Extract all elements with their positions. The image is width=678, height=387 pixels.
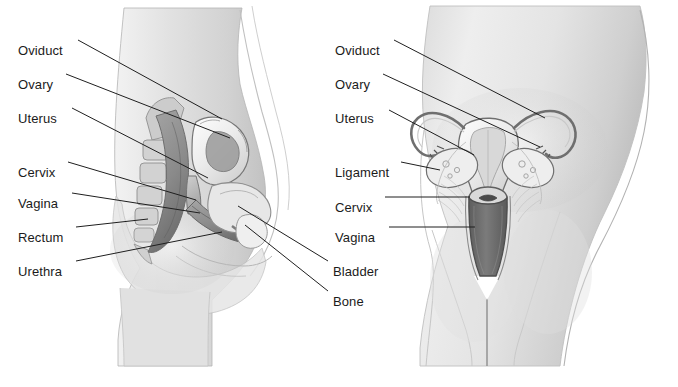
label-frontal-ovary: Ovary bbox=[335, 78, 370, 91]
label-sagittal-bone: Bone bbox=[333, 295, 364, 308]
sagittal-pubic-bone bbox=[236, 214, 267, 248]
label-frontal-oviduct: Oviduct bbox=[335, 44, 380, 57]
label-frontal-uterus: Uterus bbox=[335, 112, 374, 125]
label-sagittal-cervix: Cervix bbox=[18, 166, 55, 179]
label-sagittal-urethra: Urethra bbox=[18, 265, 62, 278]
label-sagittal-uterus: Uterus bbox=[18, 112, 57, 125]
label-frontal-ligament: Ligament bbox=[335, 166, 389, 179]
label-frontal-vagina: Vagina bbox=[335, 231, 375, 244]
label-frontal-cervix: Cervix bbox=[335, 201, 372, 214]
label-sagittal-rectum: Rectum bbox=[18, 231, 63, 244]
anatomy-illustration bbox=[0, 0, 678, 387]
anatomy-figure: OviductOvaryUterusCervixVaginaRectumUret… bbox=[0, 0, 678, 387]
label-sagittal-oviduct: Oviduct bbox=[18, 44, 63, 57]
label-sagittal-ovary: Ovary bbox=[18, 78, 53, 91]
sagittal-body-silhouette bbox=[110, 6, 289, 366]
label-sagittal-vagina: Vagina bbox=[18, 197, 58, 210]
label-sagittal-bladder: Bladder bbox=[333, 265, 379, 278]
